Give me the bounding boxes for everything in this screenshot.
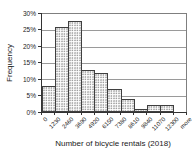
x-tick-label: 7380 xyxy=(114,116,128,130)
x-tick-mark xyxy=(81,112,82,115)
y-tick-mark xyxy=(38,29,41,30)
y-tick-mark xyxy=(38,62,41,63)
histogram-bar xyxy=(68,21,82,112)
y-tick-label: 25% xyxy=(14,26,36,33)
x-tick-mark xyxy=(173,112,174,115)
histogram-bar xyxy=(107,89,121,112)
histogram-bar xyxy=(55,27,69,112)
x-tick-label: 0 xyxy=(42,116,49,123)
x-tick-mark xyxy=(186,112,187,115)
x-axis-line xyxy=(41,112,187,113)
x-axis-title: Number of bicycle rentals (2018) xyxy=(30,139,196,148)
x-tick-mark xyxy=(146,112,147,115)
histogram-chart: Frequency Number of bicycle rentals (201… xyxy=(0,0,196,154)
y-tick-label: 15% xyxy=(14,59,36,66)
x-tick-label: 6150 xyxy=(100,116,114,130)
histogram-bar xyxy=(160,105,174,112)
y-tick-mark xyxy=(38,79,41,80)
x-tick-mark xyxy=(54,112,55,115)
histogram-bar xyxy=(147,105,161,112)
histogram-bar xyxy=(94,73,108,112)
x-tick-mark xyxy=(120,112,121,115)
x-tick-mark xyxy=(133,112,134,115)
histogram-bar xyxy=(42,86,56,112)
y-tick-mark xyxy=(38,46,41,47)
y-tick-label: 0% xyxy=(14,109,36,116)
y-tick-label: 5% xyxy=(14,92,36,99)
x-tick-label: 12300 xyxy=(164,116,180,132)
x-tick-mark xyxy=(67,112,68,115)
x-tick-label: 2460 xyxy=(61,116,75,130)
histogram-bar xyxy=(121,99,135,112)
y-tick-mark xyxy=(38,95,41,96)
y-axis-line xyxy=(41,13,42,114)
y-tick-label: 10% xyxy=(14,76,36,83)
histogram-bar xyxy=(81,70,95,112)
x-tick-label: 4920 xyxy=(87,116,101,130)
x-tick-mark xyxy=(160,112,161,115)
x-tick-mark xyxy=(41,112,42,115)
y-tick-label: 20% xyxy=(14,43,36,50)
plot-area xyxy=(41,13,187,113)
y-tick-label: 30% xyxy=(14,10,36,17)
x-tick-label: 3690 xyxy=(74,116,88,130)
x-tick-mark xyxy=(107,112,108,115)
y-tick-mark xyxy=(38,13,41,14)
x-tick-label: 1230 xyxy=(48,116,62,130)
x-tick-label: 8610 xyxy=(127,116,141,130)
x-tick-mark xyxy=(94,112,95,115)
x-tick-label: more xyxy=(179,116,193,130)
y-axis-title: Frequency xyxy=(5,44,14,82)
